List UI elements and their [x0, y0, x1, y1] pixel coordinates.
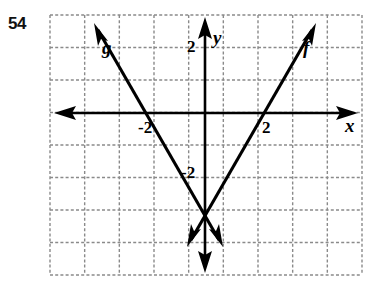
curve-label-f: f — [303, 37, 309, 59]
graph-figure: 54 — [0, 0, 374, 292]
y-tick-negative-2: -2 — [181, 163, 195, 183]
y-tick-positive-2: 2 — [187, 37, 196, 57]
curve-label-g: g — [102, 37, 112, 59]
line-g — [98, 30, 219, 240]
x-tick-positive-2: 2 — [262, 118, 271, 138]
function-lines — [50, 15, 362, 275]
line-f — [191, 30, 312, 240]
x-tick-negative-2: -2 — [138, 118, 152, 138]
x-axis-label: x — [345, 115, 355, 137]
y-axis-label: y — [213, 27, 221, 49]
problem-number: 54 — [8, 14, 26, 34]
coordinate-plane: -2 2 2 -2 y x g f — [50, 15, 362, 275]
